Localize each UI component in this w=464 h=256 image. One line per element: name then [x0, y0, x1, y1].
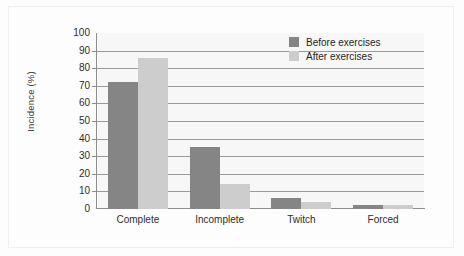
chart-legend: Before exercisesAfter exercises — [289, 36, 419, 64]
y-tick-mark — [92, 86, 97, 87]
legend-label: Before exercises — [306, 37, 380, 48]
bar-incomplete-after — [220, 184, 250, 209]
y-tick-label: 60 — [50, 98, 90, 108]
y-tick-label: 80 — [50, 63, 90, 73]
bar-complete-before — [108, 82, 138, 209]
legend-entry: Before exercises — [289, 36, 419, 48]
legend-swatch-icon — [289, 37, 299, 47]
y-tick-label: 100 — [50, 28, 90, 38]
y-tick-label: 0 — [50, 204, 90, 214]
y-tick-label: 70 — [50, 81, 90, 91]
bar-forced-after — [383, 205, 413, 209]
bar-twitch-after — [301, 202, 331, 209]
y-tick-label: 30 — [50, 151, 90, 161]
y-tick-mark — [92, 156, 97, 157]
legend-swatch-icon — [289, 51, 299, 61]
y-tick-mark — [92, 51, 97, 52]
bar-incomplete-before — [190, 147, 220, 209]
y-tick-label: 20 — [50, 169, 90, 179]
y-tick-mark — [92, 121, 97, 122]
legend-label: After exercises — [306, 51, 372, 62]
chart-screenshot: Incidence (%) 0102030405060708090100 Com… — [0, 0, 464, 256]
bar-complete-after — [138, 58, 168, 209]
y-tick-mark — [92, 139, 97, 140]
y-tick-mark — [92, 68, 97, 69]
y-tick-label: 40 — [50, 134, 90, 144]
legend-entry: After exercises — [289, 50, 419, 62]
y-tick-mark — [92, 191, 97, 192]
y-tick-label: 10 — [50, 186, 90, 196]
y-axis-title: Incidence (%) — [25, 52, 36, 152]
bar-forced-before — [353, 205, 383, 209]
y-tick-mark — [92, 174, 97, 175]
y-tick-label: 90 — [50, 46, 90, 56]
y-tick-label: 50 — [50, 116, 90, 126]
bar-twitch-before — [271, 198, 301, 209]
y-tick-mark — [92, 103, 97, 104]
x-tick-label: Forced — [333, 214, 433, 225]
y-axis-tick-labels: 0102030405060708090100 — [46, 0, 90, 256]
